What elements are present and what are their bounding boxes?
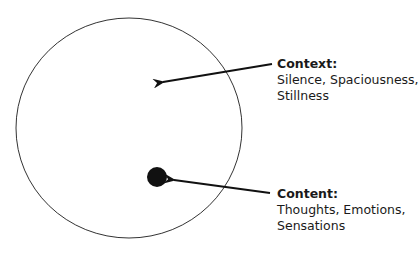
context-circle bbox=[16, 18, 242, 238]
context-title: Context: bbox=[277, 56, 419, 72]
content-label: Content: Thoughts, Emotions, Sensations bbox=[277, 186, 406, 234]
content-description-line2: Sensations bbox=[277, 218, 406, 234]
content-dot bbox=[147, 167, 167, 187]
context-description-line1: Silence, Spaciousness, bbox=[277, 72, 419, 88]
context-arrow bbox=[163, 64, 272, 82]
content-description-line1: Thoughts, Emotions, bbox=[277, 202, 406, 218]
content-title: Content: bbox=[277, 186, 406, 202]
context-label: Context: Silence, Spaciousness, Stillnes… bbox=[277, 56, 419, 104]
context-description-line2: Stillness bbox=[277, 88, 419, 104]
